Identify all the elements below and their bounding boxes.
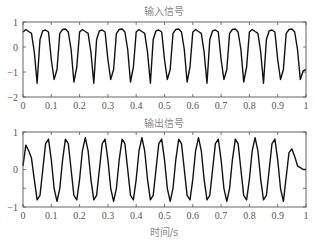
- subplot-title-input: 输入信号: [144, 5, 184, 17]
- x-tick-label: 0.5: [158, 100, 171, 111]
- output-x-tick-labels: 00.10.20.30.40.50.60.70.80.91: [21, 210, 309, 221]
- y-tick-label: 0: [13, 164, 18, 175]
- input-signal-subplot: 输入信号 00.10.20.30.40.50.60.70.80.91 −2−10…: [7, 5, 308, 111]
- x-tick-label: 0.4: [130, 210, 143, 221]
- x-tick-label: 0.3: [102, 210, 115, 221]
- x-tick-label: 0.8: [243, 210, 256, 221]
- x-tick-label: 0.9: [271, 100, 284, 111]
- x-tick-label: 0.9: [271, 210, 284, 221]
- x-tick-label: 0.1: [45, 210, 58, 221]
- subplot-title-output: 输出信号: [144, 117, 184, 129]
- x-tick-label: 0.1: [45, 100, 58, 111]
- x-axis-label: 时间/s: [150, 226, 179, 238]
- x-tick-label: 0: [21, 210, 26, 221]
- output-y-tick-labels: −101: [7, 127, 18, 213]
- y-tick-label: 1: [13, 17, 18, 28]
- x-tick-label: 0: [21, 100, 26, 111]
- x-tick-label: 0.5: [158, 210, 171, 221]
- x-tick-label: 1: [304, 100, 309, 111]
- x-tick-label: 0.6: [187, 100, 200, 111]
- input-y-tick-labels: −2−101: [7, 17, 18, 103]
- x-tick-label: 0.8: [243, 100, 256, 111]
- x-tick-label: 0.7: [215, 210, 228, 221]
- figure: 输入信号 00.10.20.30.40.50.60.70.80.91 −2−10…: [0, 0, 316, 244]
- y-tick-label: 1: [13, 127, 18, 138]
- input-x-tick-labels: 00.10.20.30.40.50.60.70.80.91: [21, 100, 309, 111]
- x-tick-label: 0.2: [73, 100, 86, 111]
- output-signal-subplot: 输出信号 00.10.20.30.40.50.60.70.80.91 −101 …: [7, 117, 308, 238]
- x-tick-label: 0.7: [215, 100, 228, 111]
- input-signal-line: [23, 29, 306, 83]
- y-tick-label: 0: [13, 42, 18, 53]
- x-tick-label: 0.2: [73, 210, 86, 221]
- x-tick-label: 0.4: [130, 100, 143, 111]
- x-tick-label: 1: [304, 210, 309, 221]
- y-tick-label: −1: [7, 202, 18, 213]
- x-tick-label: 0.3: [102, 100, 115, 111]
- y-tick-label: −2: [7, 92, 18, 103]
- output-signal-line: [23, 138, 306, 202]
- y-tick-label: −1: [7, 67, 18, 78]
- x-tick-label: 0.6: [187, 210, 200, 221]
